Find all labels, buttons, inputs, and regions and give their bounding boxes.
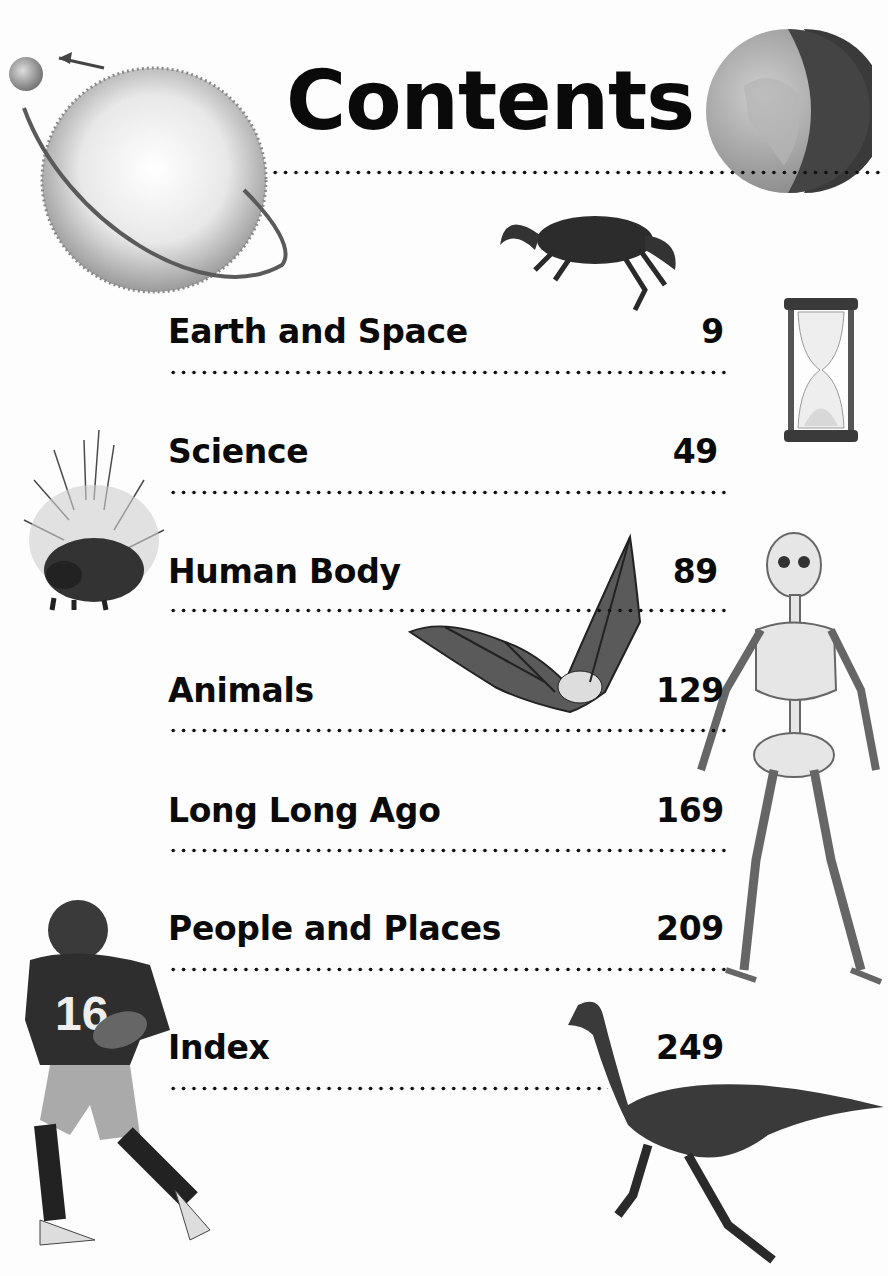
toc-divider (168, 728, 726, 733)
toc-entry-page: 89 (673, 552, 718, 591)
toc-entry-label: People and Places (168, 909, 501, 948)
toc-entry-page: 129 (656, 671, 724, 710)
sun-illustration (4, 50, 294, 310)
porcupine-illustration (14, 420, 174, 615)
toc-entry-page: 9 (701, 312, 724, 351)
page-title: Contents (286, 60, 694, 142)
crab-illustration (495, 190, 685, 315)
toc-entry-page: 169 (656, 791, 724, 830)
hourglass-illustration (782, 296, 860, 444)
toc-divider (168, 490, 726, 495)
toc-divider (168, 370, 726, 375)
toc-entry-label: Animals (168, 671, 314, 710)
toc-divider (168, 848, 726, 853)
toc-divider (168, 967, 726, 972)
toc-entry-page: 209 (656, 909, 724, 948)
bat-illustration (405, 532, 650, 722)
toc-entry-label: Long Long Ago (168, 791, 441, 830)
toc-entry-page: 49 (673, 432, 718, 471)
toc-divider (168, 608, 726, 613)
toc-entry-page: 249 (656, 1028, 724, 1067)
toc-entry-label: Index (168, 1028, 270, 1067)
toc-entry-label: Human Body (168, 552, 401, 591)
title-divider (270, 170, 884, 175)
toc-divider (168, 1086, 608, 1091)
toc-entry-label: Earth and Space (168, 312, 468, 351)
toc-entry-label: Science (168, 432, 308, 471)
